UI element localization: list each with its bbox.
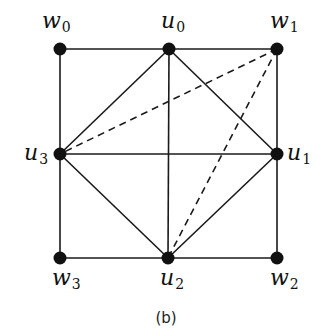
node-u3 — [54, 148, 67, 161]
node-u0 — [163, 43, 176, 56]
node-w2 — [271, 252, 284, 265]
node-w3 — [54, 252, 67, 265]
node-label-u0: u0 — [161, 8, 185, 35]
node-label-u1: u1 — [287, 140, 311, 167]
edge-u1-u2 — [168, 154, 277, 258]
edge-u0-u1 — [169, 49, 277, 154]
edge-u3-u0 — [60, 49, 169, 154]
node-w0 — [54, 43, 67, 56]
node-label-w2: w2 — [270, 265, 299, 292]
node-label-u2: u2 — [160, 265, 184, 292]
node-u2 — [162, 252, 175, 265]
node-label-w0: w0 — [42, 8, 71, 35]
edge-u2-u3 — [60, 154, 168, 258]
node-label-w1: w1 — [270, 8, 299, 35]
node-w1 — [271, 43, 284, 56]
node-label-u3: u3 — [24, 140, 48, 167]
edges-group — [60, 49, 277, 258]
figure-caption: (b) — [155, 309, 176, 327]
node-label-w3: w3 — [52, 265, 81, 292]
node-u1 — [271, 148, 284, 161]
graph-diagram: w0u0w1u3u1w3u2w2 (b) — [0, 0, 332, 336]
